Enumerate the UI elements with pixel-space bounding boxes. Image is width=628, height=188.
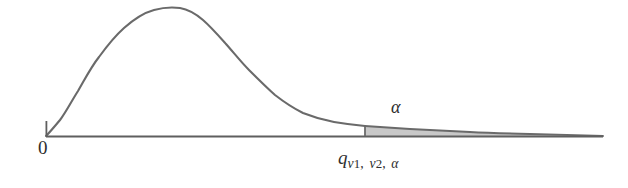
quantile-alpha-symbol: α [391,156,398,171]
density-curve [46,8,365,136]
quantile-comma-2: , [382,156,386,171]
quantile-base-symbol: q [338,147,348,168]
quantile-comma-1: , [360,156,364,171]
distribution-plot [0,0,628,188]
alpha-area-label: α [391,98,400,116]
f-distribution-figure: 0 α qν1, ν2, α [0,0,628,188]
critical-value-label: qν1, ν2, α [338,148,399,171]
origin-axis-label: 0 [38,138,48,157]
